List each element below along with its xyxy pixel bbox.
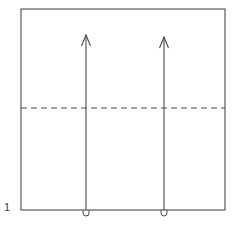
figure-container: 1	[0, 0, 234, 226]
figure-number-label: 1	[4, 201, 10, 213]
diagram-canvas: 1	[0, 0, 234, 226]
outer-rectangle	[21, 9, 225, 210]
left-arrow-base-loop-icon	[83, 210, 89, 216]
right-arrow-base-loop-icon	[161, 210, 167, 216]
